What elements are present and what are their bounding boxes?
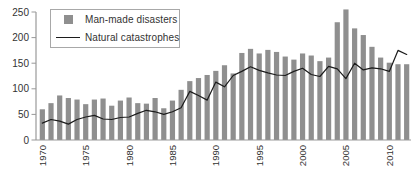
bar-1982 [144,104,149,140]
y-tick-label-150: 150 [12,58,29,69]
bar-1973 [66,98,71,140]
bar-1992 [231,73,236,140]
bar-2001 [309,56,314,140]
bar-2003 [326,58,331,140]
bar-2004 [335,22,340,140]
y-tick-label-0: 0 [23,135,29,146]
line-swatch-icon [56,37,80,38]
bar-2007 [361,35,366,140]
natural-marker-cell [51,37,85,38]
bar-1995 [257,53,262,140]
bar-1989 [205,75,210,140]
bar-1986 [179,90,184,140]
bar-2008 [369,47,374,140]
bar-1985 [170,101,175,140]
bar-1998 [283,57,288,140]
bar-1991 [222,65,227,140]
x-tick-label-1985: 1985 [167,145,178,166]
x-tick-label-1975: 1975 [80,145,91,166]
bar-1979 [118,101,123,140]
bar-1983 [153,98,158,140]
x-tick-label-1970: 1970 [37,145,48,166]
x-tick-label-2000: 2000 [297,145,308,166]
bar-1988 [196,78,201,140]
bar-2012 [404,64,409,140]
bar-2010 [387,63,392,140]
x-tick-label-1990: 1990 [210,145,221,166]
x-tick-label-1995: 1995 [254,145,265,166]
legend-item-man-made: Man-made disasters [51,11,179,28]
x-tick-label-2010: 2010 [384,145,395,166]
y-tick-label-200: 200 [12,32,29,43]
bar-1980 [126,98,131,141]
bar-1984 [161,108,166,140]
bar-1997 [274,52,279,140]
legend-label-natural: Natural catastrophes [85,32,179,43]
bar-1996 [265,50,270,140]
catastrophe-events-chart: 0501001502002501970197519801985199019952… [0,0,415,180]
bar-1994 [248,49,253,140]
bar-swatch-icon [64,15,73,24]
y-tick-label-100: 100 [12,83,29,94]
x-tick-label-2005: 2005 [340,145,351,166]
legend-box: Man-made disasters Natural catastrophes [50,9,180,48]
legend-item-natural: Natural catastrophes [51,29,179,46]
bar-2011 [395,64,400,140]
bar-1972 [57,95,62,140]
bar-1975 [83,104,88,140]
bar-1987 [187,81,192,140]
bar-1978 [109,106,114,140]
legend-label-man-made: Man-made disasters [85,14,177,25]
bar-1970 [40,109,45,140]
bar-2002 [317,61,322,140]
bar-1971 [48,103,53,140]
x-tick-label-1980: 1980 [124,145,135,166]
bar-1990 [213,71,218,140]
bar-1993 [239,53,244,140]
y-tick-label-250: 250 [12,7,29,18]
bar-1976 [92,100,97,140]
bar-1981 [135,103,140,140]
y-tick-label-50: 50 [18,109,30,120]
bar-2006 [352,28,357,140]
bar-2000 [300,53,305,140]
man-made-marker-cell [51,15,85,24]
